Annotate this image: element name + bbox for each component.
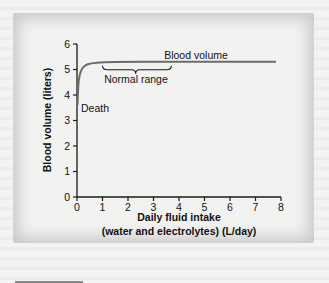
y-axis-title: Blood volume (liters) xyxy=(41,68,53,172)
y-ticks: 0123456 xyxy=(64,38,77,203)
x-axis-title: Daily fluid intake xyxy=(137,211,221,223)
death-label: Death xyxy=(81,102,109,114)
y-tick-label: 2 xyxy=(64,140,70,152)
x-tick-label: 2 xyxy=(125,201,131,213)
y-tick-label: 4 xyxy=(64,89,70,101)
y-tick-label: 1 xyxy=(64,165,70,177)
y-tick-label: 5 xyxy=(64,63,70,75)
x-tick-label: 8 xyxy=(278,201,284,213)
y-tick-label: 0 xyxy=(64,191,70,203)
chart: 0123456 012345678 Blood volume Normal ra… xyxy=(0,0,329,283)
x-tick-label: 1 xyxy=(100,201,106,213)
series-label: Blood volume xyxy=(164,49,228,61)
y-tick-label: 3 xyxy=(64,114,70,126)
x-tick-label: 7 xyxy=(253,201,259,213)
y-tick-label: 6 xyxy=(64,38,70,50)
normal-range-label: Normal range xyxy=(104,73,168,85)
x-tick-label: 6 xyxy=(227,201,233,213)
axes xyxy=(77,44,281,197)
x-axis-subtitle: (water and electrolytes) (L/day) xyxy=(102,225,257,237)
x-tick-label: 0 xyxy=(74,201,80,213)
